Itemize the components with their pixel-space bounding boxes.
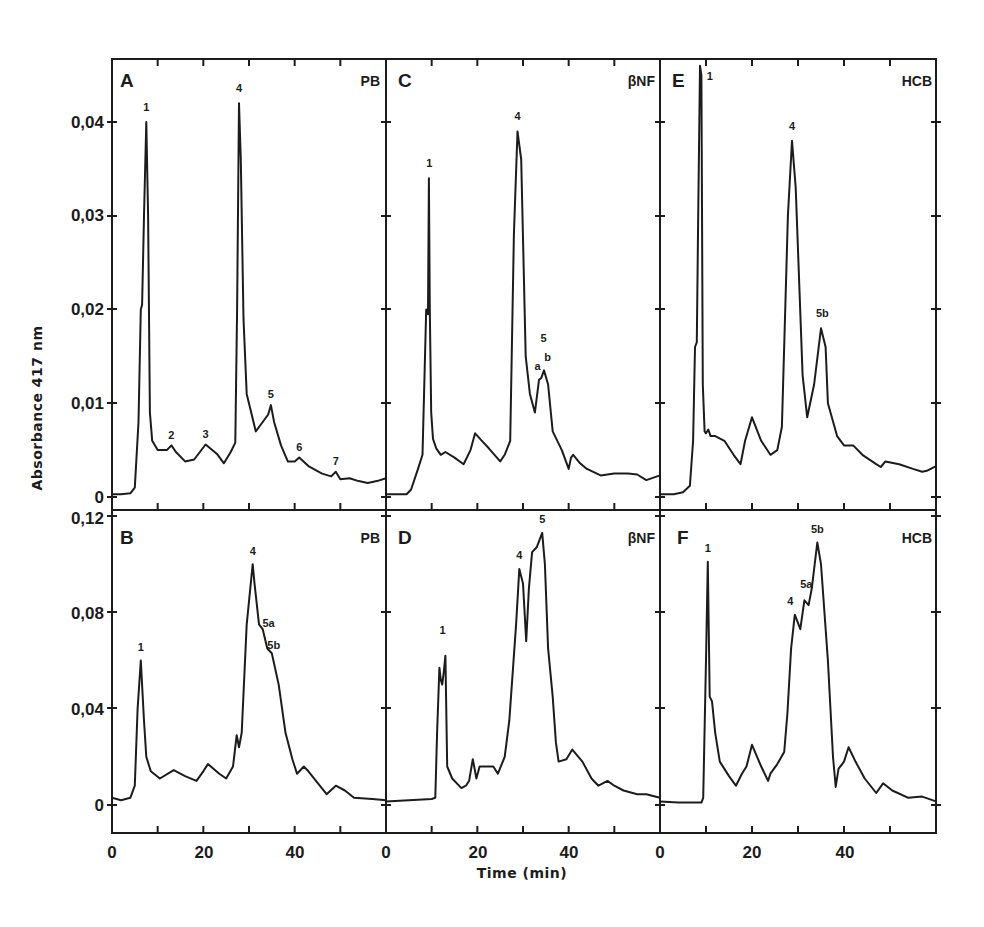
panel-tag-a: PB [361, 73, 380, 89]
peak-label: 4 [236, 82, 243, 94]
panel-letter-c: C [398, 70, 412, 91]
peak-label: 7 [333, 455, 339, 467]
x-tick-label: 20 [195, 843, 214, 862]
trace-panel-d [386, 533, 660, 802]
trace-panel-b [112, 564, 386, 800]
peak-label: 5b [816, 307, 829, 319]
peak-label: 3 [203, 428, 209, 440]
x-tick-label: 0 [107, 843, 116, 862]
x-axis-labels: 0 20 40 0 20 40 0 20 40 [107, 843, 854, 862]
peak-label: 6 [296, 441, 302, 453]
peak-label: 5a [800, 578, 813, 590]
panel-tag-d: βNF [628, 530, 656, 546]
x-tick-label: 40 [836, 843, 855, 862]
panel-tag-b: PB [361, 530, 380, 546]
peak-label: 1 [440, 624, 446, 636]
trace-panel-f [660, 543, 936, 803]
peak-label: 5b [811, 523, 824, 535]
peak-label: 1 [138, 641, 144, 653]
chromatogram-traces [112, 66, 936, 803]
y-tick-label: 0 [95, 488, 104, 507]
x-tick-label: 40 [286, 843, 305, 862]
axis-ticks [107, 59, 941, 833]
panel-letter-b: B [120, 527, 134, 548]
peak-label: 5a [262, 617, 275, 629]
peak-label: 5 [268, 388, 274, 400]
y-tick-label: 0,12 [71, 509, 104, 528]
x-tick-label: 20 [743, 843, 762, 862]
panel-tag-e: HCB [902, 73, 932, 89]
y-tick-label: 0,04 [71, 113, 105, 132]
y-axis-title: Absorbance 417 nm [29, 326, 45, 491]
y-tick-label: 0,04 [71, 700, 105, 719]
x-tick-label: 40 [560, 843, 579, 862]
y-axis-bottom-labels: 0,12 0,08 0,04 0 [71, 509, 105, 815]
peak-label: 4 [789, 120, 796, 132]
trace-panel-c [386, 131, 660, 494]
figure-frame [112, 59, 936, 833]
panel-letter-e: E [672, 70, 685, 91]
peak-label: 4 [250, 545, 257, 557]
peak-label: 1 [143, 101, 149, 113]
panel-letter-a: A [120, 70, 134, 91]
x-tick-label: 0 [655, 843, 664, 862]
y-tick-label: 0,08 [71, 604, 104, 623]
peak-label: 5 [540, 332, 546, 344]
panel-letter-d: D [398, 527, 412, 548]
trace-panel-e [660, 66, 936, 494]
panel-letter-f: F [677, 527, 689, 548]
panel-tag-c: βNF [628, 73, 656, 89]
peak-label: b [544, 351, 551, 363]
peak-label: a [535, 360, 542, 372]
y-tick-label: 0,03 [71, 206, 104, 225]
trace-panel-a [112, 103, 386, 494]
peak-label: 4 [514, 110, 521, 122]
peak-label: 1 [705, 542, 711, 554]
chromatogram-figure: 0,04 0,03 0,02 0,01 0 0,12 0,08 0,04 0 A… [0, 0, 984, 927]
x-tick-label: 20 [469, 843, 488, 862]
x-axis-title: Time (min) [477, 865, 567, 881]
peak-label: 1 [426, 157, 432, 169]
y-tick-label: 0,01 [71, 394, 104, 413]
peak-label: 5b [267, 639, 280, 651]
y-tick-label: 0 [95, 796, 104, 815]
peak-label: 5 [539, 513, 545, 525]
peak-label: 1 [707, 70, 713, 82]
peak-label: 4 [787, 595, 794, 607]
x-tick-label: 0 [381, 843, 390, 862]
panel-tag-f: HCB [902, 530, 932, 546]
y-axis-top-labels: 0,04 0,03 0,02 0,01 0 [71, 113, 105, 507]
y-tick-label: 0,02 [71, 300, 104, 319]
peak-label: 2 [168, 429, 174, 441]
peak-label: 4 [516, 549, 523, 561]
panel-annotations: A PB B PB C βNF D βNF E HCB F HCB [120, 70, 932, 548]
